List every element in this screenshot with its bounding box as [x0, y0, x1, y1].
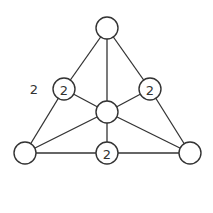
free-labels: 2	[30, 82, 38, 97]
node-label: 2	[60, 83, 68, 98]
node-circle	[179, 142, 201, 164]
node-bottom_right	[179, 142, 201, 164]
node-label: 2	[146, 83, 154, 98]
edges	[25, 28, 190, 153]
node-circle	[14, 142, 36, 164]
node-circle	[96, 101, 118, 123]
node-bottom_left	[14, 142, 36, 164]
graph-diagram: 222 2	[0, 0, 213, 213]
node-top	[96, 17, 118, 39]
node-left_mid: 2	[53, 78, 75, 100]
node-bottom_mid: 2	[96, 142, 118, 164]
node-center	[96, 101, 118, 123]
node-right_mid: 2	[139, 78, 161, 100]
free-label: 2	[30, 82, 38, 97]
node-circle	[96, 17, 118, 39]
node-label: 2	[103, 147, 111, 162]
